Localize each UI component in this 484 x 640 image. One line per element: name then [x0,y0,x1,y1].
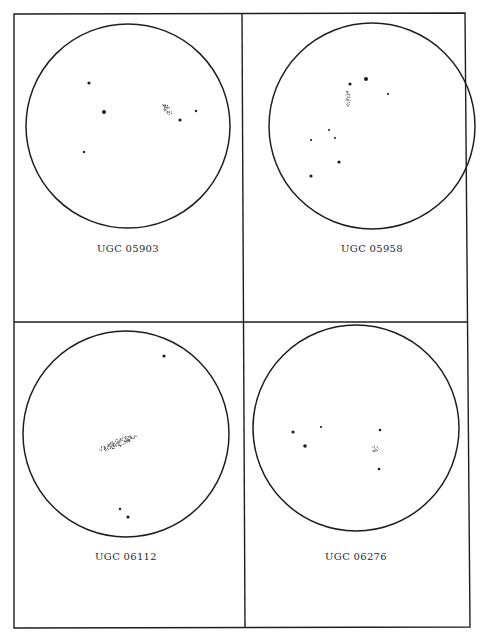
star-dot-icon [364,77,368,81]
star-dot-icon [337,160,340,163]
field-circle [23,331,229,537]
star-dot-icon [387,93,389,95]
finder-panel-ugc-05903 [26,24,230,228]
galaxy-stipple-icon [161,102,174,116]
panel-label-ugc-06276: UGC 06276 [325,551,387,562]
panels-layer [23,23,475,537]
star-dot-icon [87,81,90,84]
field-circle [269,23,475,229]
panel-label-ugc-05958: UGC 05958 [341,243,403,254]
galaxy-stipple-icon [345,91,352,107]
galaxy-stipple-icon [372,445,379,452]
finder-panel-ugc-06112 [23,331,229,537]
star-dot-icon [162,354,165,357]
finder-panel-ugc-05958 [269,23,475,229]
galaxy-stipple-icon [98,432,139,454]
star-dot-icon [309,174,312,177]
field-circle [26,24,230,228]
star-dot-icon [291,430,294,433]
star-dot-icon [348,82,351,85]
star-dot-icon [195,110,197,112]
star-dot-icon [178,118,181,121]
panel-label-ugc-05903: UGC 05903 [97,243,159,254]
star-dot-icon [303,444,307,448]
finder-chart-figure [0,0,484,640]
vertical-divider [242,14,245,628]
star-dot-icon [102,110,106,114]
field-circle [253,325,459,531]
frame-grid [14,13,470,628]
star-dot-icon [328,129,330,131]
star-dot-icon [310,139,312,141]
star-dot-icon [379,429,382,432]
star-dot-icon [334,137,336,139]
star-dot-icon [83,151,85,153]
star-dot-icon [126,515,129,518]
finder-panel-ugc-06276 [253,325,459,531]
star-dot-icon [320,426,322,428]
star-dot-icon [119,508,121,510]
star-dot-icon [378,468,381,471]
panel-label-ugc-06112: UGC 06112 [95,551,157,562]
